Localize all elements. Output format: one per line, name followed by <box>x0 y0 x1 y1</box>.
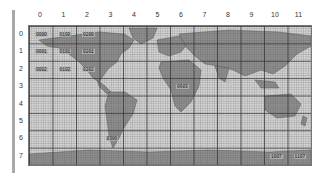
column-label: 8 <box>216 11 240 18</box>
tile-label[interactable]: 0001 <box>35 49 48 54</box>
world-map-grid[interactable]: 0000010002000001010102010002010202020603… <box>28 25 312 166</box>
row-label: 2 <box>17 65 25 72</box>
column-label: 11 <box>287 11 311 18</box>
tile-label[interactable]: 0200 <box>82 32 95 37</box>
tile-label[interactable]: 0306 <box>106 136 119 141</box>
column-label: 0 <box>28 11 52 18</box>
column-label: 10 <box>263 11 287 18</box>
row-label: 1 <box>17 47 25 54</box>
column-label: 5 <box>146 11 170 18</box>
row-label: 4 <box>17 100 25 107</box>
row-label: 3 <box>17 82 25 89</box>
side-bar <box>12 10 15 173</box>
column-label: 4 <box>122 11 146 18</box>
column-label: 1 <box>52 11 76 18</box>
row-label: 5 <box>17 117 25 124</box>
tile-label[interactable]: 0101 <box>59 49 72 54</box>
tile-label[interactable]: 1007 <box>270 154 283 159</box>
row-label: 7 <box>17 152 25 159</box>
tile-label[interactable]: 0000 <box>35 32 48 37</box>
tile-label[interactable]: 0002 <box>35 67 48 72</box>
tile-label[interactable]: 0202 <box>82 67 95 72</box>
tile-label[interactable]: 0100 <box>59 32 72 37</box>
column-label: 3 <box>99 11 123 18</box>
column-label: 2 <box>75 11 99 18</box>
tile-label[interactable]: 0603 <box>176 84 189 89</box>
tile-label[interactable]: 0102 <box>59 67 72 72</box>
column-label: 7 <box>193 11 217 18</box>
row-label: 0 <box>17 30 25 37</box>
tile-label[interactable]: 0201 <box>82 49 95 54</box>
column-label: 9 <box>240 11 264 18</box>
tile-label[interactable]: 1107 <box>294 154 307 159</box>
major-grid <box>29 26 311 165</box>
column-label: 6 <box>169 11 193 18</box>
row-label: 6 <box>17 134 25 141</box>
